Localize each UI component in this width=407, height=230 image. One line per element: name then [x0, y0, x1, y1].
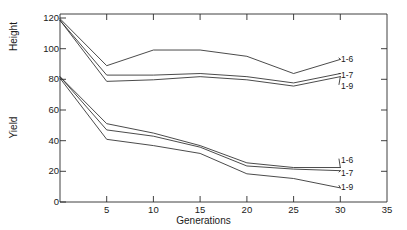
series-layer	[60, 19, 340, 188]
y-tick-100: 100	[35, 43, 59, 54]
plot-frame	[60, 14, 387, 202]
y-tick-80: 80	[35, 73, 59, 84]
height-axis-label: Height	[8, 15, 19, 59]
y-tick-0: 0	[35, 196, 59, 207]
x-tick-25: 25	[282, 204, 306, 215]
x-axis-ticks	[107, 196, 341, 202]
series-label-yield-1-9: 1-9	[341, 182, 353, 192]
x-axis-top-ticks	[107, 14, 341, 20]
y-tick-20: 20	[35, 165, 59, 176]
series-height-1-9	[60, 20, 340, 86]
y-axis-ticks	[60, 18, 66, 202]
right-axis-ticks	[381, 49, 387, 172]
series-label-height-1-7: 1-7	[341, 70, 353, 80]
series-yield-1-7	[60, 77, 340, 171]
x-tick-5: 5	[95, 204, 119, 215]
y-tick-40: 40	[35, 135, 59, 146]
chart-figure: 120 100 80 60 40 20 0 5 10 15 20 25 30 3…	[0, 0, 407, 230]
x-axis-title: Generations	[0, 215, 407, 226]
y-tick-120: 120	[35, 12, 59, 23]
series-yield-1-9	[60, 78, 340, 188]
x-tick-30: 30	[328, 204, 352, 215]
series-height-1-6	[60, 19, 340, 74]
yield-axis-label: Yield	[8, 107, 19, 149]
series-label-height-1-9: 1-9	[341, 81, 353, 91]
y-tick-60: 60	[35, 104, 59, 115]
series-label-yield-1-6: 1-6	[341, 155, 353, 165]
plot-area	[0, 0, 407, 230]
series-label-height-1-6: 1-6	[341, 54, 353, 64]
x-tick-35: 35	[375, 204, 399, 215]
series-yield-1-6	[60, 77, 340, 168]
series-height-1-7	[60, 20, 340, 83]
x-tick-15: 15	[188, 204, 212, 215]
x-tick-20: 20	[235, 204, 259, 215]
series-label-yield-1-7: 1-7	[341, 168, 353, 178]
x-tick-10: 10	[141, 204, 165, 215]
